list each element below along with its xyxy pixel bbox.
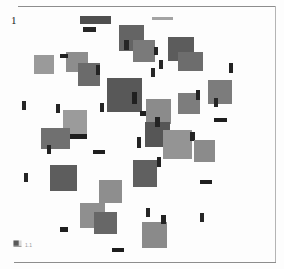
scatter-block — [214, 98, 218, 107]
scatter-block — [60, 227, 68, 232]
scatter-block — [152, 17, 173, 20]
scatter-block — [50, 165, 77, 191]
scatter-block — [146, 208, 150, 217]
scatter-block — [229, 63, 233, 73]
scatter-block — [41, 128, 70, 149]
scatter-block — [163, 130, 192, 159]
scatter-block — [151, 68, 155, 77]
scatter-block — [133, 160, 157, 187]
scatter-block — [137, 137, 141, 148]
scatter-block — [94, 212, 117, 234]
scatter-block — [70, 134, 87, 139]
scatter-block — [178, 52, 203, 71]
scatter-block — [208, 80, 232, 104]
scatter-block — [99, 180, 122, 203]
scatter-block — [124, 40, 129, 50]
scatter-block — [34, 55, 54, 74]
footer-caption: 1.1 — [25, 242, 32, 248]
scatter-block — [60, 54, 68, 58]
scatter-block — [194, 140, 215, 162]
scatter-block — [200, 180, 212, 184]
scatter-block — [161, 215, 166, 224]
scatter-block — [214, 118, 227, 122]
scatter-block — [154, 47, 158, 55]
scatter-block — [56, 104, 60, 113]
scatter-block — [159, 60, 163, 69]
scatter-block — [200, 213, 204, 222]
scatter-block — [112, 248, 124, 252]
scatter-block — [47, 145, 51, 154]
scatter-block — [83, 27, 96, 32]
scatter-block — [155, 117, 160, 127]
scatter-block — [196, 90, 200, 100]
scatter-block — [157, 157, 161, 167]
scatter-block — [142, 222, 167, 248]
scatter-block — [24, 173, 28, 182]
scatter-block — [22, 101, 26, 110]
scatter-block — [132, 92, 137, 104]
scatter-plot-canvas — [0, 0, 284, 269]
flag-icon — [13, 240, 22, 249]
scatter-block — [133, 40, 155, 62]
document-page: 1 1.1 — [0, 0, 284, 269]
scatter-block — [93, 150, 105, 154]
footer: 1.1 — [13, 240, 32, 249]
scatter-block — [80, 16, 111, 24]
scatter-block — [96, 65, 100, 75]
scatter-block — [100, 103, 104, 112]
